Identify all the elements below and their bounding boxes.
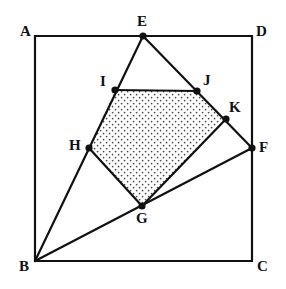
vertex-label-f: F (259, 140, 268, 155)
vertex-dot-f (248, 144, 255, 151)
geometry-canvas (0, 0, 286, 289)
vertex-dot-g (138, 202, 145, 209)
vertex-label-c: C (257, 259, 268, 274)
vertex-label-b: B (19, 259, 29, 274)
segment-I-J (115, 90, 197, 91)
vertex-label-a: A (20, 24, 31, 39)
vertex-dot-i (111, 86, 118, 93)
geometry-figure: ADBCEFGHIJK (0, 0, 286, 289)
vertex-dot-e (139, 32, 146, 39)
vertex-label-k: K (229, 100, 241, 115)
vertex-label-i: I (100, 74, 106, 89)
vertex-dot-j (193, 87, 200, 94)
vertex-label-d: D (256, 24, 267, 39)
vertex-dot-k (222, 115, 229, 122)
vertex-label-h: H (69, 138, 81, 153)
vertex-label-e: E (137, 14, 147, 29)
vertex-dot-h (85, 144, 92, 151)
vertex-label-g: G (136, 211, 148, 226)
vertex-label-j: J (203, 73, 211, 88)
